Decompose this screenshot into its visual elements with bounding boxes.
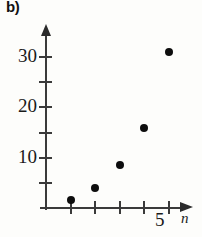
x-tick — [168, 201, 170, 214]
y-tick — [39, 81, 52, 83]
y-tick — [39, 157, 52, 159]
y-tick — [39, 132, 52, 134]
y-tick-label-text: 20 — [0, 96, 37, 115]
x-axis-name-label: n — [181, 209, 189, 227]
data-point — [116, 161, 124, 169]
y-tick — [39, 56, 52, 58]
x-axis-tick-label-5: 5 — [155, 210, 165, 230]
y-tick — [39, 106, 52, 108]
x-tick — [119, 201, 121, 214]
y-tick — [39, 182, 52, 184]
y-tick-label-text: 10 — [0, 147, 37, 166]
x-tick — [143, 201, 145, 214]
scatter-plot: 302010 5 n — [0, 0, 202, 237]
y-tick-label-text: 30 — [0, 46, 37, 65]
y-axis-arrow-icon — [41, 24, 51, 36]
data-point — [91, 184, 99, 192]
figure-panel-b: b) 302010 5 n — [0, 0, 202, 237]
data-point — [165, 48, 173, 56]
x-tick — [94, 201, 96, 214]
data-point — [140, 124, 148, 132]
data-point — [67, 196, 75, 204]
